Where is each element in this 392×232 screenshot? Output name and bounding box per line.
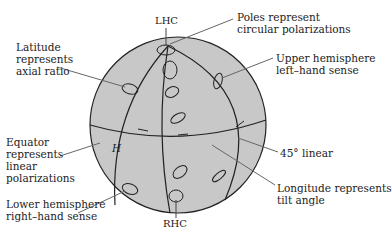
equator-caption: Equator represents linear polarizations <box>6 136 75 184</box>
sphere-body <box>90 37 266 213</box>
linear45-caption: 45° linear <box>280 147 333 159</box>
latitude-caption: Latitude represents axial ratio <box>16 41 73 77</box>
longitude-caption: Longitude represents tilt angle <box>277 182 392 206</box>
poles-caption: Poles represent circular polarizations <box>237 11 351 35</box>
lhc-label: LHC <box>155 15 178 27</box>
upper-hemisphere-caption: Upper hemisphere left–hand sense <box>276 52 375 76</box>
lower-hemisphere-caption: Lower hemisphere right–hand sense <box>6 198 105 222</box>
rhc-label: RHC <box>163 218 187 230</box>
h-label: H <box>112 142 121 154</box>
